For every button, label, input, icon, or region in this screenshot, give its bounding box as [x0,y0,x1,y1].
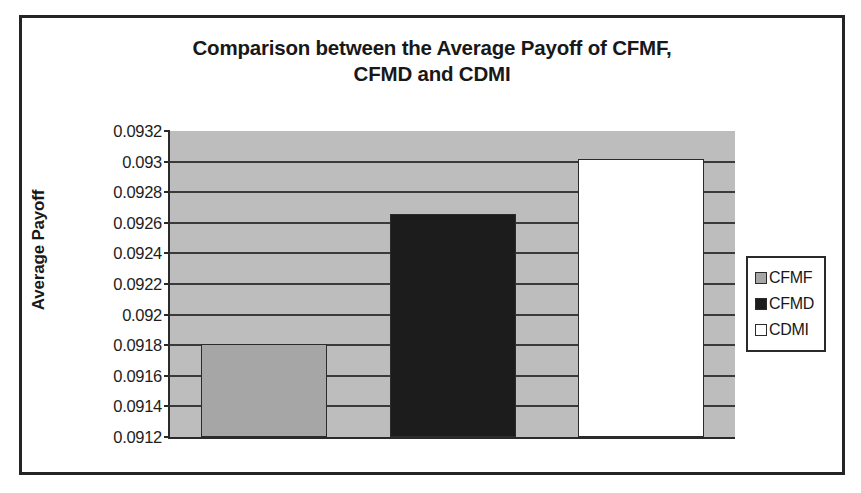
legend-swatch-icon [755,272,767,284]
legend-label: CDMI [769,321,809,339]
bar-cfmf [201,344,327,437]
y-axis-tick-label: 0.092 [58,305,162,325]
chart-frame: Comparison between the Average Payoff of… [19,15,845,475]
legend-item-cfmf[interactable]: CFMF [755,265,818,291]
y-axis-tick-label: 0.0924 [58,243,162,263]
chart-title-line-2: CFMD and CDMI [22,61,842,87]
bar-cdmi [578,159,704,437]
chart-legend: CFMFCFMDCDMI [746,256,826,352]
legend-item-cfmd[interactable]: CFMD [755,291,818,317]
chart-title: Comparison between the Average Payoff of… [22,35,842,87]
bar-series-group [170,131,735,437]
y-axis-tick-label: 0.0932 [58,121,162,141]
y-axis-tick-label: 0.093 [58,152,162,172]
y-axis-tick-label: 0.0914 [58,396,162,416]
legend-label: CFMD [769,295,814,313]
legend-swatch-icon [755,324,767,336]
legend-item-cdmi[interactable]: CDMI [755,317,818,343]
y-axis-tick-label: 0.0922 [58,274,162,294]
y-axis-title: Average Payoff [29,140,49,360]
bar-cfmd [390,214,516,437]
y-axis-tick-label: 0.0926 [58,213,162,233]
legend-label: CFMF [769,269,812,287]
legend-swatch-icon [755,298,767,310]
y-axis-tick-label: 0.0928 [58,182,162,202]
y-axis-tick-label: 0.0912 [58,427,162,447]
y-axis-tick-label: 0.0918 [58,335,162,355]
y-axis-tick-label: 0.0916 [58,366,162,386]
y-axis-tick-labels: 0.09320.0930.09280.09260.09240.09220.092… [58,131,162,437]
chart-title-line-1: Comparison between the Average Payoff of… [22,35,842,61]
plot-area [168,131,735,439]
